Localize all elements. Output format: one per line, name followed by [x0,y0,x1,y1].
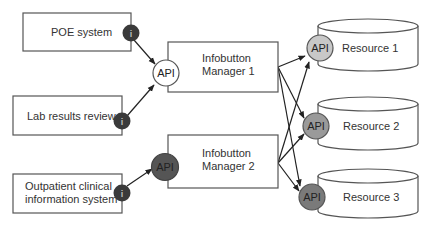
infobutton-manager-1: Infobutton Manager 1 API [153,42,278,92]
cylinder-top [318,19,418,33]
api-label: API [303,191,321,203]
infobutton-manager-2: Infobutton Manager 2 API [152,135,279,188]
edge-m1-r1 [278,56,305,67]
resource-label: Resource 1 [342,42,398,54]
api-label: API [311,42,329,54]
cylinder-top [318,97,418,111]
source-manager-edges [127,40,155,186]
cylinder-top [318,169,418,183]
infobutton-icon-glyph: i [121,189,124,199]
resource-3: Resource 3 API [299,169,418,218]
api-label: API [157,67,175,79]
source-poe-system: POE system i [23,13,140,51]
resource-1: Resource 1 API [307,19,418,71]
manager-label-line-2: Manager 1 [202,65,255,77]
infobutton-architecture-diagram: POE system i Lab results review i Outpat… [0,0,428,229]
edge-poe-m1 [134,40,155,64]
manager-label-line-2: Manager 2 [202,160,255,172]
source-label: POE system [51,26,112,38]
edge-outpatient-m2 [127,169,152,186]
resource-label: Resource 2 [343,120,399,132]
edge-lab-m1 [127,85,154,116]
edge-m2-r3 [278,163,299,191]
source-label-line-2: information system [25,193,117,205]
manager-label-line-1: Infobutton [202,52,251,64]
manager-label-line-1: Infobutton [202,147,251,159]
source-outpatient-clinical-information-system: Outpatient clinical information system i [13,174,131,213]
resource-label: Resource 3 [343,191,399,203]
api-label: API [156,161,174,173]
infobutton-icon-glyph: i [121,117,124,127]
api-label: API [307,120,325,132]
source-lab-results-review: Lab results review i [13,96,131,135]
source-label-line-1: Outpatient clinical [25,180,112,192]
infobutton-icon-glyph: i [130,29,133,39]
resource-2: Resource 2 API [303,97,418,150]
source-label: Lab results review [27,110,116,122]
